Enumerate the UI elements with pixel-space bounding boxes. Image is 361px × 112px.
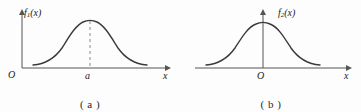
panel-b-plot: [181, 0, 361, 112]
panel-a: f1(x) O a x ( a ): [0, 0, 180, 112]
origin-label-b: O: [257, 70, 264, 81]
x-axis-label-a: x: [163, 70, 167, 81]
y-axis-label-a: f1(x): [24, 7, 41, 19]
mean-tick-label-a: a: [85, 70, 90, 81]
figure-container: f1(x) O a x ( a ) f2(x) O x: [0, 0, 361, 112]
panel-a-caption: ( a ): [0, 98, 180, 110]
x-axis-label-b: x: [344, 70, 348, 81]
panel-b: f2(x) O x ( b ): [181, 0, 361, 112]
origin-label-a: O: [8, 69, 15, 80]
y-axis-label-b: f2(x): [278, 7, 295, 19]
panel-b-caption: ( b ): [181, 98, 361, 110]
